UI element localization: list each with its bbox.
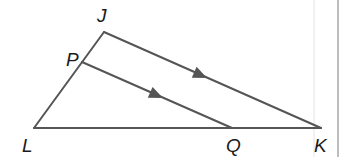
triangle-diagram: J P L Q K [0,0,351,157]
label-K: K [314,135,328,156]
parallel-arrow-JK [192,67,210,84]
label-J: J [96,5,107,26]
segment-JL [34,32,104,128]
parallel-arrow-PQ [148,87,166,104]
label-Q: Q [226,135,241,156]
segment-JK [104,32,321,128]
label-L: L [22,135,33,156]
label-P: P [66,49,79,70]
